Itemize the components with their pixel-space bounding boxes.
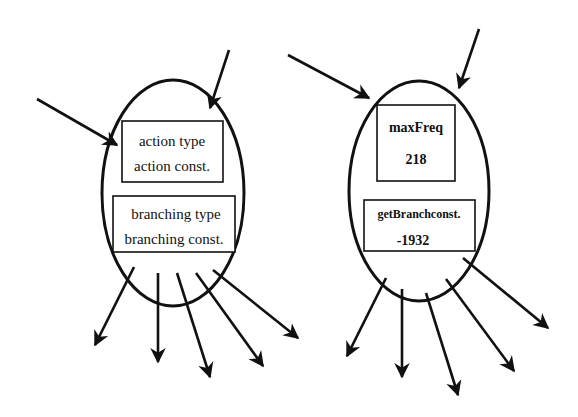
left-node-oval (102, 80, 244, 306)
right-top-box (377, 105, 455, 181)
right-incoming-arrow-2 (459, 29, 479, 88)
right-node: maxFreq 218 getBranchconst. -1932 (288, 29, 548, 395)
left-outgoing-arrow-5 (213, 270, 298, 338)
right-outgoing-arrow-1 (347, 278, 386, 356)
left-bottom-label-2: branching const. (124, 231, 223, 247)
right-outgoing-arrow-3 (426, 293, 458, 395)
left-bottom-label-1: branching type (131, 206, 221, 222)
left-node: action type action const. branching type… (37, 50, 298, 377)
left-incoming-arrow-1 (37, 99, 117, 145)
right-bottom-label-1: getBranchconst. (378, 207, 461, 221)
diagram-canvas: action type action const. branching type… (0, 0, 578, 417)
left-outgoing-arrow-3 (177, 273, 210, 377)
left-incoming-arrow-2 (210, 50, 229, 108)
left-top-label-2: action const. (134, 158, 210, 174)
right-top-label-1: maxFreq (389, 120, 443, 135)
right-bottom-label-2: -1932 (397, 233, 430, 248)
left-outgoing-arrow-1 (95, 267, 134, 345)
right-incoming-arrow-1 (288, 55, 369, 98)
right-top-label-2: 218 (406, 152, 427, 167)
left-top-label-1: action type (139, 133, 206, 149)
left-outgoing-arrow-4 (196, 273, 263, 366)
